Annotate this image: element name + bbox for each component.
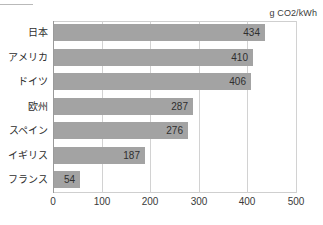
unit-label: g CO2/kWh xyxy=(270,8,317,18)
bar-value-label: 187 xyxy=(54,147,140,164)
x-tick-label-300: 300 xyxy=(179,196,219,208)
bar-row: 434 xyxy=(53,21,297,46)
bar-value-label: 287 xyxy=(54,98,188,115)
x-axis-tick-labels: 0100200300400500 xyxy=(0,196,323,210)
scan-artifact-line xyxy=(0,4,33,5)
category-label: イギリス xyxy=(0,147,48,164)
category-label: ドイツ xyxy=(0,73,48,90)
x-tick-label-400: 400 xyxy=(227,196,267,208)
bar-value-label: 410 xyxy=(54,49,248,66)
x-tick-label-500: 500 xyxy=(276,196,316,208)
co2-intensity-bar-chart: g CO2/kWh 43441040628727618754 日本アメリカドイツ… xyxy=(0,0,323,225)
bar-value-label: 434 xyxy=(54,24,260,41)
bar-value-label: 276 xyxy=(54,122,183,139)
x-tick-label-100: 100 xyxy=(82,196,122,208)
category-label: アメリカ xyxy=(0,49,48,66)
x-tick-label-200: 200 xyxy=(130,196,170,208)
category-label: 日本 xyxy=(0,24,48,41)
bar-row: 410 xyxy=(53,46,297,71)
bar-row: 287 xyxy=(53,95,297,120)
bar-rows-group: 43441040628727618754 xyxy=(53,21,297,193)
bar-row: 406 xyxy=(53,70,297,95)
bar-value-label: 54 xyxy=(54,171,75,188)
bar-row: 187 xyxy=(53,144,297,169)
bar-row: 276 xyxy=(53,119,297,144)
category-label: フランス xyxy=(0,171,48,188)
x-tick-label-0: 0 xyxy=(33,196,73,208)
bar-value-label: 406 xyxy=(54,73,246,90)
category-label: スペイン xyxy=(0,122,48,139)
plot-area: 43441040628727618754 xyxy=(53,21,297,193)
bar-row: 54 xyxy=(53,168,297,193)
category-label: 欧州 xyxy=(0,98,48,115)
